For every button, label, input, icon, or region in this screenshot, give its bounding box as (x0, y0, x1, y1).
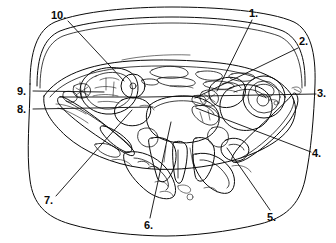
label-number-6: 6. (144, 219, 153, 231)
label-number-1: 1. (249, 7, 258, 19)
abdominal-cavity-outline (44, 60, 296, 169)
label-number-10: 10. (51, 9, 66, 21)
leader-line-2 (195, 48, 298, 98)
leader-lines-group (33, 20, 316, 218)
leader-line-9 (33, 91, 104, 92)
leader-line-8 (33, 107, 153, 109)
outer-body-contour (28, 7, 315, 236)
right-iliac-bone (221, 87, 301, 163)
leader-line-7 (56, 110, 132, 196)
label-number-5: 5. (267, 211, 276, 223)
central-vertebra (138, 96, 229, 183)
anatomy-line-drawing (0, 0, 336, 243)
label-number-4: 4. (312, 147, 321, 159)
label-number-8: 8. (17, 103, 26, 115)
left-iliac-bone (58, 97, 135, 158)
anatomy-figure: 1.2.3.4.5.6.7.8.9.10. (0, 0, 336, 243)
posterior-musculature (124, 152, 235, 200)
label-number-7: 7. (44, 194, 53, 206)
label-number-3: 3. (317, 87, 326, 99)
label-number-9: 9. (17, 85, 26, 97)
label-number-2: 2. (299, 35, 308, 47)
